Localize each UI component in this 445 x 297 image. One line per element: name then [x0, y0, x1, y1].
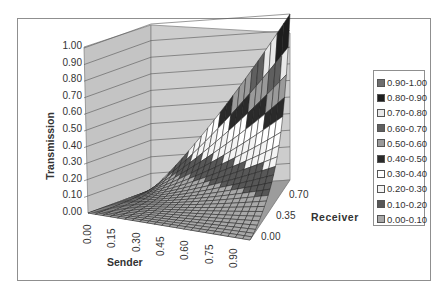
- y-tick-label: 0.30: [52, 156, 82, 167]
- legend-item: 0.80-0.90: [377, 90, 424, 105]
- x-tick-label: 0.60: [179, 241, 190, 260]
- x-tick-label: 0.75: [204, 245, 215, 264]
- legend-item: 0.00-0.10: [377, 212, 424, 227]
- legend-item: 0.30-0.40: [377, 166, 424, 181]
- y-tick-label: 0.50: [52, 123, 82, 134]
- legend-swatch: [377, 139, 385, 147]
- legend-item: 0.90-1.00: [377, 75, 424, 90]
- y-tick-label: 0.10: [52, 189, 82, 200]
- legend-label: 0.60-0.70: [387, 123, 427, 134]
- y-tick-label: 0.00: [52, 206, 82, 217]
- legend-label: 0.00-0.10: [387, 214, 427, 225]
- legend-label: 0.40-0.50: [387, 153, 427, 164]
- x-tick-label: 0.45: [155, 237, 166, 256]
- legend-swatch: [377, 170, 385, 178]
- x-tick-label: 0.30: [131, 233, 142, 252]
- legend-swatch: [377, 155, 385, 163]
- y-tick-label: 0.70: [52, 90, 82, 101]
- legend-swatch: [377, 124, 385, 132]
- legend-item: 0.10-0.20: [377, 197, 424, 212]
- legend-label: 0.50-0.60: [387, 138, 427, 149]
- legend: 0.90-1.000.80-0.900.70-0.800.60-0.700.50…: [373, 70, 425, 226]
- legend-label: 0.20-0.30: [387, 183, 427, 194]
- legend-label: 0.80-0.90: [387, 92, 427, 103]
- legend-label: 0.10-0.20: [387, 199, 427, 210]
- y-axis-title: Transmission: [44, 112, 56, 180]
- x-axis-title: Sender: [107, 256, 143, 268]
- z-tick-label: 0.00: [261, 231, 280, 242]
- x-tick-label: 0.90: [228, 249, 239, 268]
- legend-item: 0.20-0.30: [377, 181, 424, 196]
- legend-item: 0.40-0.50: [377, 151, 424, 166]
- legend-swatch: [377, 79, 385, 87]
- legend-swatch: [377, 109, 385, 117]
- y-tick-label: 0.20: [52, 173, 82, 184]
- y-tick-label: 0.60: [52, 106, 82, 117]
- legend-label: 0.70-0.80: [387, 107, 427, 118]
- legend-item: 0.60-0.70: [377, 121, 424, 136]
- legend-swatch: [377, 200, 385, 208]
- y-tick-label: 1.00: [52, 40, 82, 51]
- legend-label: 0.30-0.40: [387, 168, 427, 179]
- x-tick-label: 0.15: [106, 229, 117, 248]
- legend-swatch: [377, 94, 385, 102]
- z-tick-label: 0.35: [276, 210, 295, 221]
- x-tick-label: 0.00: [82, 225, 93, 244]
- legend-label: 0.90-1.00: [387, 77, 427, 88]
- legend-swatch: [377, 215, 385, 223]
- y-tick-label: 0.80: [52, 73, 82, 84]
- legend-swatch: [377, 185, 385, 193]
- legend-item: 0.70-0.80: [377, 105, 424, 120]
- z-axis-title: Receiver: [311, 211, 359, 223]
- y-tick-label: 0.90: [52, 57, 82, 68]
- legend-item: 0.50-0.60: [377, 136, 424, 151]
- y-tick-label: 0.40: [52, 140, 82, 151]
- z-tick-label: 0.70: [289, 189, 308, 200]
